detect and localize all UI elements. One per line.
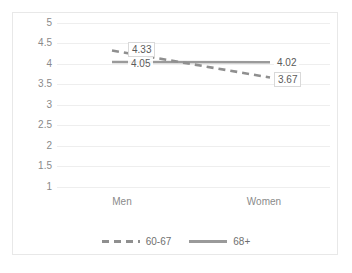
legend-item-68plus[interactable]: 68+ <box>189 236 250 247</box>
data-label-men-60-67: 4.33 <box>128 42 155 57</box>
y-axis-tick-label: 5 <box>6 18 52 28</box>
y-axis-tick-4: 4 <box>6 59 52 69</box>
legend-label-68plus: 68+ <box>233 236 250 247</box>
gridline-1 <box>57 187 330 188</box>
y-axis-tick-2.5: 2.5 <box>6 120 52 130</box>
y-axis-tick-label: 4.5 <box>6 38 52 48</box>
legend-solid-line-icon <box>189 240 227 243</box>
y-axis-tick-label: 1 <box>6 182 52 192</box>
y-axis-tick-1: 1 <box>6 182 52 192</box>
y-axis-tick-label: 3 <box>6 100 52 110</box>
y-axis-tick-label: 2 <box>6 141 52 151</box>
gridline-5 <box>57 23 330 24</box>
data-label-men-68plus: 4.05 <box>128 57 153 70</box>
chart-plot-area: 5 4.5 4 3.5 3 2.5 2 1.5 1 4.33 4.05 4.02… <box>0 0 352 273</box>
gridline-4.5 <box>57 43 330 44</box>
legend-dashed-line-icon <box>102 240 140 243</box>
gridline-2 <box>57 146 330 147</box>
chart-legend: 60-67 68+ <box>0 236 352 247</box>
y-axis-tick-2: 2 <box>6 141 52 151</box>
series-lines <box>0 0 352 273</box>
y-axis-tick-1.5: 1.5 <box>6 161 52 171</box>
x-axis-label-women: Women <box>228 196 300 207</box>
data-label-women-68plus: 4.02 <box>274 56 299 69</box>
y-axis-tick-label: 2.5 <box>6 120 52 130</box>
y-axis-tick-3: 3 <box>6 100 52 110</box>
y-axis-tick-5: 5 <box>6 18 52 28</box>
y-axis-tick-4.5: 4.5 <box>6 38 52 48</box>
legend-item-60-67[interactable]: 60-67 <box>102 236 172 247</box>
data-label-women-60-67: 3.67 <box>274 72 301 87</box>
gridline-1.5 <box>57 166 330 167</box>
y-axis-tick-label: 3.5 <box>6 79 52 89</box>
legend-label-60-67: 60-67 <box>146 236 172 247</box>
gridline-3 <box>57 105 330 106</box>
y-axis-tick-3.5: 3.5 <box>6 79 52 89</box>
gridline-2.5 <box>57 125 330 126</box>
y-axis-tick-label: 4 <box>6 59 52 69</box>
y-axis-tick-label: 1.5 <box>6 161 52 171</box>
x-axis-label-men: Men <box>92 196 152 207</box>
